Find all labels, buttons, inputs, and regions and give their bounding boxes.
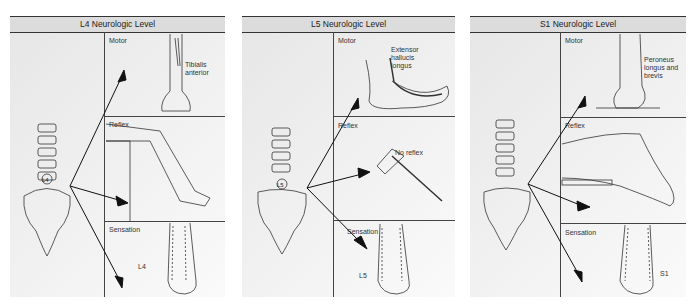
panel-l4: L4 Neurologic Level Motor Tibialis anter… bbox=[10, 16, 225, 297]
s1-illustration bbox=[470, 16, 686, 297]
l4-illustration: L4 bbox=[10, 16, 225, 297]
panel-l5: L5 Neurologic Level Motor Extensor hallu… bbox=[242, 16, 455, 297]
svg-text:L4: L4 bbox=[42, 177, 49, 183]
l5-illustration: L5 bbox=[242, 16, 455, 297]
panel-s1: S1 Neurologic Level Motor Peroneus longu… bbox=[470, 16, 686, 297]
svg-text:L5: L5 bbox=[277, 182, 284, 188]
